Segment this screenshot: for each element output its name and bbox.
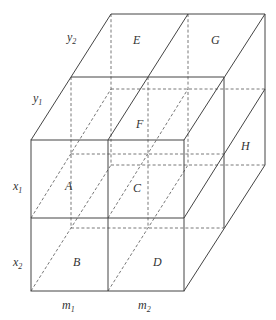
cell-label-e: E: [132, 33, 141, 47]
cell-label-a: A: [64, 179, 73, 193]
cell-label-d: D: [152, 255, 162, 269]
cell-label-f: F: [135, 117, 144, 131]
cube-diagram-svg: A B C D E F G H x1 x2 m1 m2 y1 y2: [0, 0, 276, 320]
cell-label-c: C: [133, 181, 142, 195]
depth-label-y1: y1: [32, 91, 42, 107]
column-label-m2: m2: [138, 298, 151, 314]
cube-diagram: A B C D E F G H x1 x2 m1 m2 y1 y2: [0, 0, 276, 320]
cell-label-b: B: [73, 255, 81, 269]
axis-labels: x1 x2 m1 m2 y1 y2: [12, 30, 151, 314]
row-label-x2: x2: [12, 255, 22, 271]
cell-label-h: H: [240, 139, 251, 153]
column-label-m1: m1: [62, 298, 75, 314]
hidden-edges: [31, 14, 265, 291]
cell-label-g: G: [211, 33, 220, 47]
depth-label-y2: y2: [66, 30, 76, 46]
cell-labels: A B C D E F G H: [64, 33, 251, 269]
row-label-x1: x1: [12, 179, 22, 195]
